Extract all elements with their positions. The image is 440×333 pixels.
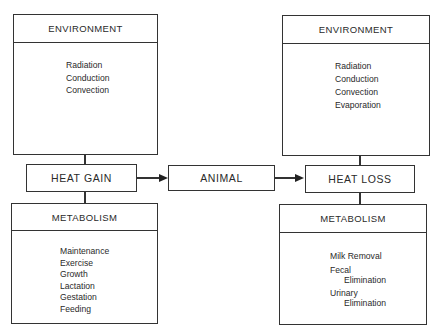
list-item: Evaporation [335, 99, 381, 112]
list-item: Radiation [335, 60, 381, 73]
right-environment-list: Radiation Conduction Convection Evaporat… [335, 60, 381, 112]
right-metabolism-list: Milk Removal Fecal Elimination Urinary E… [330, 251, 386, 309]
list-item: Convection [66, 84, 109, 97]
arrow-right-icon [295, 174, 304, 182]
animal-node: ANIMAL [168, 165, 275, 191]
list-item: Convection [335, 86, 381, 99]
list-item: Fecal [330, 265, 386, 276]
list-item: Gestation [60, 292, 109, 304]
arrow-heat-gain-to-animal-line [137, 177, 161, 179]
heat-gain-node: HEAT GAIN [26, 164, 137, 192]
right-metabolism-box: METABOLISM Milk Removal Fecal Eliminatio… [279, 204, 427, 325]
heat-loss-node: HEAT LOSS [305, 165, 415, 193]
arrow-animal-to-heat-loss-line [275, 177, 297, 179]
arrow-right-icon [159, 174, 168, 182]
left-metabolism-box: METABOLISM Maintenance Exercise Growth L… [11, 203, 158, 324]
left-metabolism-list: Maintenance Exercise Growth Lactation Ge… [60, 246, 109, 315]
list-item-continuation: Elimination [330, 298, 386, 309]
list-item: Radiation [66, 59, 109, 72]
left-environment-box: ENVIRONMENT Radiation Conduction Convect… [13, 14, 158, 155]
left-metabolism-title: METABOLISM [12, 204, 157, 231]
list-item: Growth [60, 269, 109, 281]
right-environment-box: ENVIRONMENT Radiation Conduction Convect… [282, 15, 430, 156]
left-environment-title: ENVIRONMENT [14, 15, 157, 43]
right-metabolism-title: METABOLISM [280, 205, 426, 233]
list-item: Conduction [335, 73, 381, 86]
list-item: Conduction [66, 72, 109, 85]
list-item: Milk Removal [330, 251, 386, 262]
left-environment-list: Radiation Conduction Convection [66, 59, 109, 97]
list-item: Feeding [60, 304, 109, 316]
list-item: Urinary [330, 288, 386, 299]
list-item-continuation: Elimination [330, 275, 386, 286]
list-item: Lactation [60, 281, 109, 293]
list-item: Maintenance [60, 246, 109, 258]
list-item: Exercise [60, 258, 109, 270]
right-environment-title: ENVIRONMENT [283, 16, 429, 44]
